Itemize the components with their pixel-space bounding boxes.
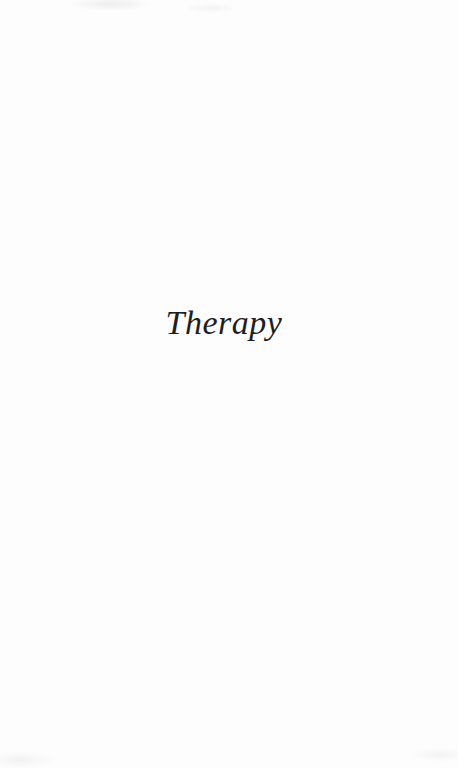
section-title: Therapy (0, 303, 448, 344)
book-page: Therapy (0, 0, 458, 768)
